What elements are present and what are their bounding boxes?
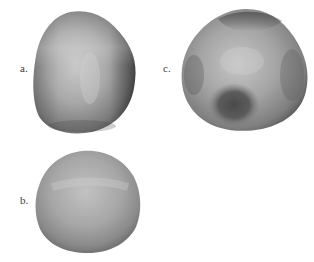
blob-shape-a — [30, 8, 138, 136]
panel-label-a: a. — [20, 63, 28, 74]
panel-label-c: c. — [163, 63, 171, 74]
panel-label-b: b. — [20, 195, 28, 206]
cropped-caption-fragment — [30, 0, 290, 2]
blob-shape-b — [32, 147, 144, 255]
blob-shape-c — [178, 5, 312, 135]
